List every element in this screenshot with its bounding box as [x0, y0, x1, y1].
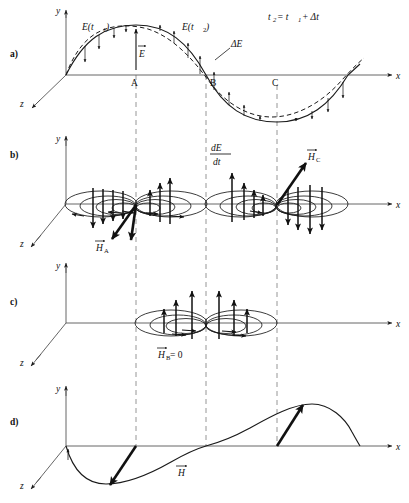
label-H-B-main: H [157, 350, 166, 360]
label-H-C-sub: C [316, 156, 321, 163]
label-E-vector-text: E [138, 49, 145, 59]
label-E-t1: E(t 1 ) [81, 22, 109, 33]
equation-middle: = t [277, 12, 289, 22]
panel-b: b) x y z [10, 134, 401, 254]
delta-E-ticks-trough [229, 82, 343, 121]
label-H-A-main: H [95, 243, 104, 253]
panel-b-z-label: z [19, 239, 24, 249]
panel-a-z-axis-arrow [32, 100, 40, 108]
label-E-t1-close: ) [105, 22, 109, 33]
panel-d-y-label: y [55, 384, 61, 394]
panel-a-label: a) [10, 49, 18, 60]
panel-c-label: c) [10, 297, 17, 308]
panel-b-x-label: x [395, 200, 401, 210]
equation-rhs-sub: 1 [298, 16, 301, 23]
physics-figure: a) x y z [0, 0, 409, 503]
panel-a-x-label: x [395, 71, 401, 81]
marker-B: B [210, 78, 216, 88]
label-dEdt-denominator: dt [213, 157, 221, 167]
panel-c: c) x y z [10, 261, 401, 368]
panel-d-label: d) [10, 417, 18, 428]
label-H-A-sub: A [104, 247, 109, 254]
label-E-vector: E [138, 46, 146, 59]
label-E-t1-main: E(t [81, 22, 94, 33]
panel-c-x-label: x [395, 319, 401, 329]
panel-a: a) x y z [10, 6, 401, 122]
panel-c-z-axis-arrow [31, 354, 41, 366]
curve-E-t1 [66, 25, 360, 122]
delta-E-ticks-falling [160, 25, 214, 90]
label-H-d-main: H [177, 468, 186, 478]
panel-d: d) x y z H [10, 384, 401, 491]
diagram-canvas: a) x y z [0, 0, 409, 503]
dEdt-arrows-lobe-4 [288, 185, 322, 234]
panel-a-z-axis [36, 75, 66, 104]
marker-A: A [131, 78, 138, 88]
equation-tail: + Δt [302, 12, 319, 22]
label-dEdt: dE dt [210, 143, 231, 167]
label-H-C: H C [307, 150, 321, 163]
curve-E-t2 [66, 26, 364, 117]
panel-b-label: b) [10, 150, 18, 161]
label-H-C-main: H [307, 152, 316, 162]
label-delta-E: ΔE [215, 39, 243, 60]
label-H-d: H [176, 466, 187, 478]
panel-a-z-label: z [19, 99, 24, 109]
dEdt-arrows-lobe-1 [93, 188, 123, 228]
panel-d-z-axis-arrow [31, 477, 41, 489]
panel-c-z-label: z [19, 358, 24, 368]
panel-d-x-label: x [395, 442, 401, 452]
panel-d-z-label: z [19, 481, 24, 491]
vertical-guide-lines [136, 75, 277, 446]
label-E-t2: E(t 2 ) [181, 22, 209, 33]
label-H-B-zero: H B = 0 [157, 348, 183, 361]
H-vector-arrow-right [277, 405, 303, 446]
label-dEdt-numerator: dE [211, 143, 222, 153]
panel-a-y-label: y [55, 6, 61, 16]
panel-b-y-label: y [55, 134, 61, 144]
label-E-t2-close: ) [205, 22, 209, 33]
panel-c-y-label: y [55, 261, 61, 271]
panel-b-z-axis-arrow [31, 235, 41, 247]
equation-lhs: t [268, 12, 271, 22]
curve-H-wave [66, 404, 360, 484]
H-C-vector-arrow [277, 163, 306, 205]
label-H-B-value: = 0 [170, 350, 183, 360]
equation-t2: t 2 = t 1 + Δt [268, 12, 319, 23]
marker-C: C [272, 78, 278, 88]
label-E-t2-main: E(t [181, 22, 194, 33]
label-H-A: H A [95, 241, 109, 254]
label-delta-E-text: ΔE [230, 39, 243, 49]
